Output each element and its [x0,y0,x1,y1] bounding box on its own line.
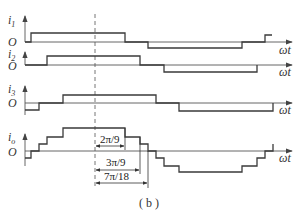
annotation-3pi-9: 3π/9 [106,156,126,168]
io-origin-label: O [8,145,17,159]
waveform-diagram: i1 O ωt i2 O ωt i3 O ωt io O ωt 2π/9 3π/… [0,0,306,220]
io-waveform [25,128,273,172]
io-wt-label: ωt [279,151,291,165]
trace-i2 [25,52,292,72]
i1-label: i1 [8,13,15,29]
i2-waveform [25,56,257,72]
dimension-2pi-9: 2π/9 [96,128,125,150]
figure-caption: ( b ) [139,196,159,210]
i1-wt-label: ωt [279,43,291,57]
i3-origin-label: O [8,96,17,110]
trace-i3 [25,86,292,115]
i1-waveform [25,33,272,48]
i2-wt-label: ωt [279,65,291,79]
trace-io [25,128,292,172]
annotation-7pi-18: 7π/18 [104,170,130,182]
i3-wt-label: ωt [279,103,291,117]
i2-origin-label: O [8,59,17,73]
annotation-2pi-9: 2π/9 [100,133,120,145]
io-label: io [8,130,15,146]
trace-i1 [25,16,292,48]
